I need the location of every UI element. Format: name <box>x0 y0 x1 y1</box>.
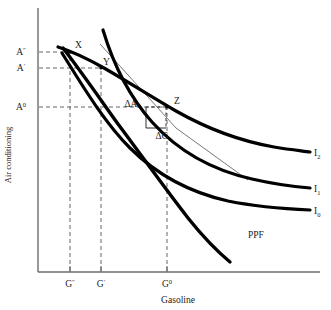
y-tick-label-a-zero: A0 <box>16 101 26 112</box>
annotation-delta-a: ΔA <box>125 99 138 109</box>
tangent-line-z <box>176 128 248 180</box>
y-tick-label-a-double-prime: A″ <box>16 46 26 57</box>
point-label-x: X <box>75 40 82 50</box>
y-tick-label-a-prime: A′ <box>17 62 26 73</box>
curve-i0 <box>62 53 310 210</box>
x-tick-label-g-prime: G′ <box>97 278 106 289</box>
curve-label-i2: I2 <box>314 148 320 160</box>
curve-i1 <box>103 30 310 188</box>
annotation-delta-g: ΔG <box>156 131 169 141</box>
x-tick-label-g-zero: G0 <box>162 278 172 289</box>
y-axis-title: Air conditioning <box>3 126 13 183</box>
point-label-z: Z <box>174 96 180 106</box>
curve-label-ppf: PPF <box>248 230 264 240</box>
curve-label-i1: I1 <box>314 184 320 196</box>
point-marker-x <box>68 50 71 53</box>
point-marker-z <box>165 105 168 108</box>
curve-i2 <box>58 47 310 152</box>
x-tick-label-g-double-prime: G″ <box>65 278 75 289</box>
x-axis-title: Gasoline <box>161 295 195 305</box>
plot-canvas: A″ A′ A0 G″ G′ G0 X Y Z ΔA ΔG I2 I1 I0 P… <box>0 0 331 310</box>
point-label-y: Y <box>103 57 110 67</box>
curve-ppf <box>63 48 230 262</box>
curve-label-i0: I0 <box>314 206 320 218</box>
indifference-curve-ppf-figure: A″ A′ A0 G″ G′ G0 X Y Z ΔA ΔG I2 I1 I0 P… <box>0 0 331 310</box>
